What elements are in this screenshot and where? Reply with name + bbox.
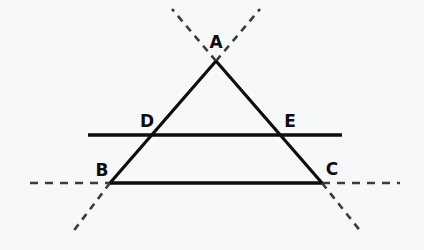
dashed-line-ac-beyond-c <box>322 183 362 233</box>
dashed-line-ab-beyond-b <box>72 183 110 233</box>
segment-ab <box>110 61 216 183</box>
diagram-canvas: A B C D E <box>0 0 424 250</box>
label-point-b: B <box>96 160 109 180</box>
dashed-line-ab-beyond-a <box>216 9 260 61</box>
label-point-e: E <box>284 111 296 131</box>
geometry-diagram: A B C D E <box>0 0 424 250</box>
segment-ac <box>216 61 322 183</box>
label-point-d: D <box>140 111 154 131</box>
label-point-c: C <box>326 159 338 179</box>
label-point-a: A <box>209 32 223 52</box>
